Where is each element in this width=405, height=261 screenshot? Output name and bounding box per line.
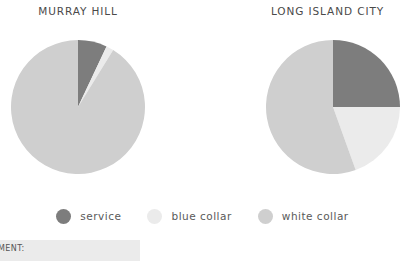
- legend-swatch-white-collar-icon: [258, 209, 273, 224]
- pie-chart-murray-hill: [11, 40, 145, 174]
- caption-box: MENT:: [0, 240, 140, 261]
- legend-label-blue-collar: blue collar: [171, 210, 231, 222]
- legend-item-service: service: [56, 209, 121, 224]
- legend-label-white-collar: white collar: [282, 210, 349, 222]
- legend-item-blue-collar: blue collar: [147, 209, 231, 224]
- employment-pie-chart-figure: MURRAY HILL LONG ISLAND CITY service blu…: [0, 0, 405, 261]
- legend-swatch-service-icon: [56, 209, 71, 224]
- pie-chart-long-island-city: [266, 40, 400, 174]
- chart-legend: service blue collar white collar: [0, 205, 405, 227]
- pie-svg-long-island-city: [266, 40, 400, 174]
- chart-title-long-island-city: LONG ISLAND CITY: [250, 5, 405, 17]
- legend-label-service: service: [80, 210, 121, 222]
- caption-text: MENT:: [0, 244, 25, 253]
- pie-svg-murray-hill: [11, 40, 145, 174]
- legend-swatch-blue-collar-icon: [147, 209, 162, 224]
- pie-slice-service: [333, 40, 400, 107]
- legend-item-white-collar: white collar: [258, 209, 349, 224]
- chart-title-murray-hill: MURRAY HILL: [0, 5, 156, 17]
